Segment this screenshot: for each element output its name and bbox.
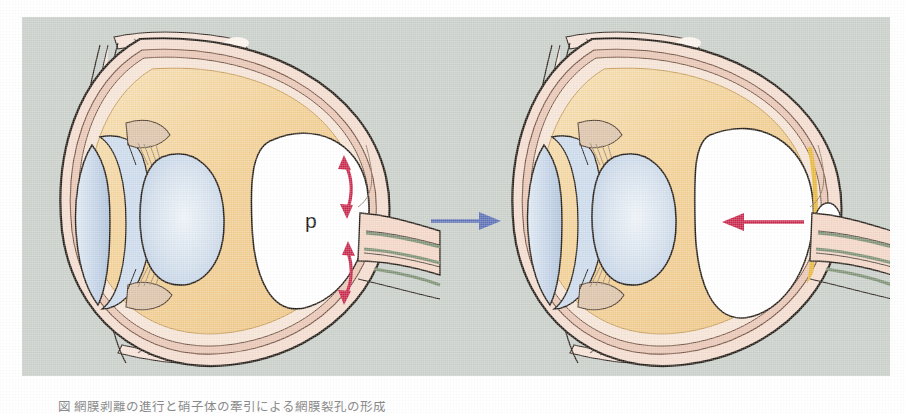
lens bbox=[592, 154, 676, 285]
eye-diagram-after bbox=[474, 17, 890, 376]
figure-page: p bbox=[0, 0, 905, 413]
cavity-pressure-label: p bbox=[305, 210, 317, 231]
eye-diagram-before bbox=[22, 17, 442, 376]
figure-caption: 図 網膜剥離の進行と硝子体の牽引による網膜裂孔の形成 bbox=[58, 401, 858, 412]
lens bbox=[140, 154, 224, 285]
illustration-panel: p bbox=[22, 17, 890, 376]
